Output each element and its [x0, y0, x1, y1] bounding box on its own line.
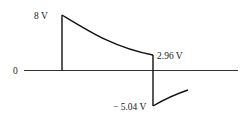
decay-curve	[62, 15, 153, 55]
end-positive-label: 2.96 V	[157, 51, 183, 61]
end-negative-label: − 5.04 V	[113, 102, 147, 112]
peak-label: 8 V	[34, 11, 48, 21]
zero-label: 0	[13, 66, 18, 76]
waveform-diagram: 8 V 0 2.96 V − 5.04 V	[0, 0, 247, 118]
recovery-curve	[153, 90, 188, 106]
